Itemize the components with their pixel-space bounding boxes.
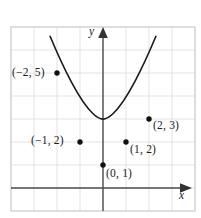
point-label-neg2-5: (−2, 5) xyxy=(12,66,45,78)
point-label-1-2: (1, 2) xyxy=(130,143,156,155)
y-axis-label: y xyxy=(89,25,94,37)
point-label-neg1-2: (−1, 2) xyxy=(31,134,64,146)
graph-canvas xyxy=(0,0,201,218)
point-label-2-3: (2, 3) xyxy=(153,119,179,131)
point-label-0-1: (0, 1) xyxy=(106,167,132,179)
point-2-3[interactable] xyxy=(146,116,151,121)
parabola-figure: (−2, 5) (−1, 2) (0, 1) (1, 2) (2, 3) y x xyxy=(0,0,201,218)
point-neg1-2[interactable] xyxy=(77,139,82,144)
x-axis-label: x xyxy=(179,189,184,201)
point-1-2[interactable] xyxy=(123,139,128,144)
point-0-1[interactable] xyxy=(100,162,105,167)
point-neg2-5[interactable] xyxy=(54,70,59,75)
